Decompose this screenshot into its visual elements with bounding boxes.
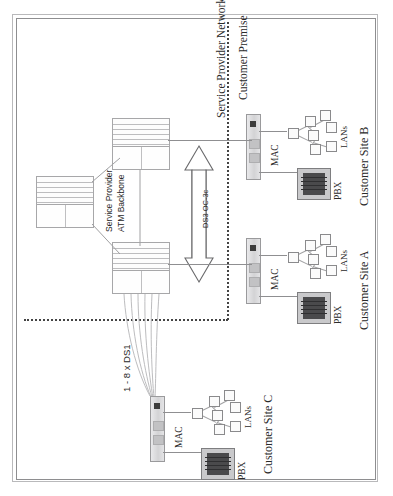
label-pbx-site-c: PBX: [238, 462, 248, 480]
lan-node: [212, 410, 223, 421]
label-mac-site-c: MAC: [175, 426, 185, 448]
lan-node: [320, 234, 331, 245]
lan-cloud-site-b[interactable]: [286, 108, 338, 160]
pbx-site-c[interactable]: [201, 448, 235, 480]
wire-mac-a-to-lans: [259, 255, 287, 256]
lan-node: [310, 144, 321, 155]
mac-slot: [153, 435, 164, 445]
mac-slot: [249, 277, 260, 287]
label-lans-site-a: LANs: [340, 250, 349, 272]
lan-node: [326, 265, 337, 276]
wire-provider-to-mac-b: [168, 140, 252, 141]
lan-node: [326, 141, 337, 152]
lan-node: [230, 402, 241, 413]
wire-mac-a-to-pbx: [259, 296, 297, 297]
diagram-canvas: Service Provider Network Customer Premis…: [0, 0, 393, 496]
lan-node: [308, 130, 319, 141]
lan-node: [209, 396, 220, 407]
lan-node: [224, 390, 235, 401]
mac-slot: [249, 153, 260, 163]
lan-node: [308, 254, 319, 265]
label-lans-site-b: LANs: [340, 126, 349, 148]
mac-device-site-a[interactable]: [246, 238, 261, 304]
lan-node: [320, 110, 331, 121]
wire-mac-b-to-pbx: [259, 172, 297, 173]
label-lans-site-c: LANs: [244, 406, 253, 428]
label-mac-site-a: MAC: [271, 268, 281, 290]
lan-node: [326, 246, 337, 257]
site-title-b: Customer Site B: [358, 127, 370, 206]
lan-node: [305, 116, 316, 127]
pbx-site-a[interactable]: [297, 292, 331, 324]
lan-cloud-site-a[interactable]: [286, 232, 338, 284]
mac-status-led: [250, 245, 256, 251]
label-pbx-site-b: PBX: [334, 182, 344, 200]
mac-device-site-b[interactable]: [246, 114, 261, 180]
wire-provider-to-mac-a: [168, 264, 252, 265]
lan-node: [288, 252, 299, 263]
lan-node: [230, 421, 241, 432]
mac-status-led: [154, 403, 160, 409]
lan-node: [214, 424, 225, 435]
lan-node: [305, 240, 316, 251]
site-title-c: Customer Site C: [262, 395, 274, 474]
pbx-site-b[interactable]: [297, 168, 331, 200]
lan-node: [288, 128, 299, 139]
lan-node: [326, 122, 337, 133]
lan-node: [192, 408, 203, 419]
mac-status-led: [250, 121, 256, 127]
wire-mac-c-to-lans: [163, 412, 191, 413]
label-1-8x-ds1: 1 - 8 x DS1: [122, 344, 132, 392]
site-title-a: Customer Site A: [358, 251, 370, 330]
label-pbx-site-a: PBX: [334, 306, 344, 324]
wire-mac-c-to-pbx: [163, 452, 201, 453]
lan-node: [310, 268, 321, 279]
label-mac-site-b: MAC: [271, 144, 281, 166]
lan-cloud-site-c[interactable]: [190, 388, 242, 440]
mac-slot: [153, 421, 164, 431]
wire-mac-b-to-lans: [259, 131, 287, 132]
